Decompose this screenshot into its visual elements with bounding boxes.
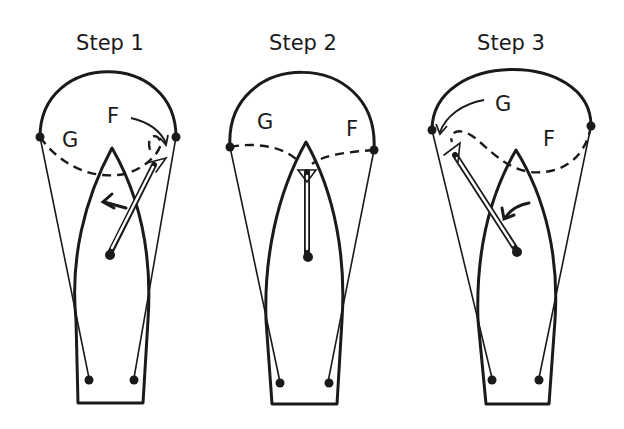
mast-dot: [105, 250, 115, 260]
sheet-dot-left: [85, 376, 94, 385]
spinnaker-foot-dashed-left: [230, 145, 300, 163]
sheet-dot-right: [325, 379, 334, 388]
sheet-line-right: [328, 150, 374, 382]
sheet-dot-right: [535, 376, 544, 385]
panel-step-2: Step 2 G F: [226, 31, 379, 404]
panel-title: Step 1: [76, 31, 144, 55]
label-foreguy: F: [346, 117, 358, 141]
spinnaker-foot-dashed-right: [312, 150, 374, 164]
pole-end-fitting: [444, 143, 460, 162]
clew-dot-left: [226, 143, 235, 152]
clew-dot-right: [587, 122, 596, 131]
sheet-line-right: [134, 137, 176, 378]
label-guy: G: [495, 92, 511, 116]
spinnaker-foot-dashed: [451, 126, 591, 172]
clew-dot-left: [36, 133, 45, 142]
clew-dot-right: [172, 133, 181, 142]
clew-dot-left: [428, 126, 437, 135]
sheet-line-left: [40, 137, 89, 378]
mast-dot: [512, 247, 522, 257]
sheet-line-left: [230, 147, 280, 382]
panel-step-1: Step 1 G F: [36, 31, 181, 403]
spinnaker-outline: [432, 69, 591, 130]
sheet-dot-right: [130, 376, 139, 385]
clew-dot-right: [370, 146, 379, 155]
sheet-line-right: [539, 126, 591, 378]
sheet-dot-left: [488, 376, 497, 385]
panel-title: Step 2: [269, 31, 337, 55]
label-guy: G: [62, 128, 78, 152]
label-guy: G: [257, 110, 273, 134]
label-foreguy: F: [107, 104, 119, 128]
mast-dot: [303, 252, 313, 262]
panel-title: Step 3: [477, 31, 545, 55]
panel-step-3: Step 3 G F: [428, 31, 596, 404]
label-foreguy: F: [543, 127, 555, 151]
spinnaker-jibe-diagram: Step 1 G F Step 2: [0, 0, 624, 429]
sheet-dot-left: [276, 379, 285, 388]
